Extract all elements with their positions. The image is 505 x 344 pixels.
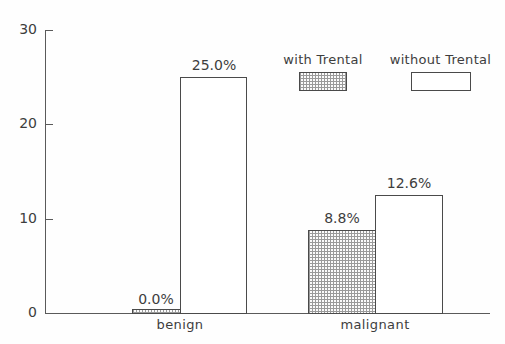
bar-label-malignant-without-trental: 12.6% <box>387 175 431 191</box>
legend-item-without-trental: without Trental <box>388 52 493 91</box>
y-tick-label-30: 30 <box>19 21 37 37</box>
x-category-label-benign: benign <box>157 317 204 333</box>
y-tick-30: 30 <box>45 30 53 31</box>
bar-label-benign-with-trental: 0.0% <box>138 291 174 307</box>
chart-figure: 0 10 20 30 benign malignant 0.0% 25.0% 8… <box>0 0 505 344</box>
bar-label-benign-without-trental: 25.0% <box>192 57 236 73</box>
legend-item-with-trental: with Trental <box>283 52 363 91</box>
y-tick-20: 20 <box>45 124 53 125</box>
legend-swatch-with-trental <box>299 72 347 91</box>
bar-malignant-with-trental <box>308 230 376 314</box>
x-category-label-malignant: malignant <box>340 317 409 333</box>
bar-benign-without-trental <box>180 77 247 314</box>
bar-benign-with-trental <box>132 309 181 314</box>
y-tick-10: 10 <box>45 219 53 220</box>
y-tick-label-20: 20 <box>19 115 37 131</box>
legend-label-with-trental: with Trental <box>283 52 363 68</box>
y-tick-label-0: 0 <box>28 304 37 320</box>
y-tick-label-10: 10 <box>19 210 37 226</box>
y-axis-line <box>45 30 46 314</box>
legend-label-without-trental: without Trental <box>388 52 493 68</box>
bar-label-malignant-with-trental: 8.8% <box>324 210 360 226</box>
legend-swatch-without-trental <box>411 72 471 91</box>
bar-malignant-without-trental <box>375 195 443 314</box>
